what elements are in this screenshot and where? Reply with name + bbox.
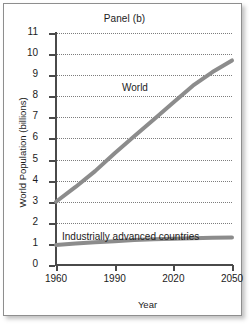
series-curves — [0, 0, 249, 324]
figure-panel-b: Panel (b) World Population (billions) Ye… — [0, 0, 249, 324]
series-label-world: World — [122, 82, 148, 93]
series-label-industrially-advanced: Industrially advanced countries — [62, 231, 199, 242]
